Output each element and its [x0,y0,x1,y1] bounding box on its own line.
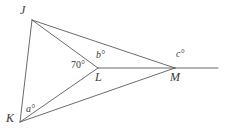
vertex-label-l: L [95,71,102,83]
geometry-figure: J K L M a° 70° b° c° [0,0,225,139]
segment-jl [32,20,98,68]
angle-label-b: b° [96,50,105,60]
figure-canvas [0,0,225,139]
vertex-label-j: J [20,4,25,16]
angle-label-a: a° [26,104,35,114]
segment-jm [32,20,175,68]
vertex-label-k: K [6,112,14,124]
segment-group [20,20,218,122]
angle-label-70: 70° [71,60,85,70]
vertex-label-m: M [170,71,180,83]
angle-label-c: c° [176,49,184,59]
